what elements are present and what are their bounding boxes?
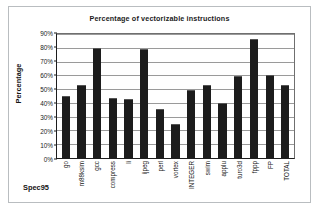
x-axis-tick-slot: gcc [89,159,105,203]
bar [109,98,117,158]
x-axis-tick-label: TOTAL [283,161,290,181]
y-axis-tick-labels: 90%80%70%60%50%40%30%20%10%0% [27,33,53,159]
chart-title: Percentage of vectorizable instructions [9,14,310,23]
x-axis-tick-labels: gom88ksimgcccompressliijpegperlvortexINT… [56,159,295,203]
x-axis-tick-slot: perl [152,159,168,203]
y-axis-tick-label: 60% [27,72,53,79]
x-axis-tick-slot: ijpeg [136,159,152,203]
x-axis-tick-slot: fppp [247,159,263,203]
bar-series [57,34,294,158]
bar-slot [246,34,262,158]
x-axis-tick-label: INTEGER [188,161,195,189]
bar-slot [121,34,137,158]
bar-slot [74,34,90,158]
x-axis-tick-label: perl [156,161,163,172]
bar-slot [230,34,246,158]
x-axis-tick-slot: swim [199,159,215,203]
x-axis-tick-label: turo3d [235,161,242,179]
bar-slot [183,34,199,158]
bar [62,96,70,158]
bar-slot [168,34,184,158]
x-axis-tick-label: compress [109,161,116,188]
bar [140,49,148,158]
bar [234,76,242,158]
y-axis-tick-label: 30% [27,114,53,121]
bar [93,48,101,158]
y-axis-tick-label: 90% [27,30,53,37]
x-axis-tick-label: swim [204,161,211,175]
bar-slot [89,34,105,158]
x-axis-tick-slot: m88ksim [73,159,89,203]
bar [203,85,211,158]
bar-slot [58,34,74,158]
bar-slot [215,34,231,158]
y-axis-tick-label: 40% [27,100,53,107]
x-axis-title: Spec95 [23,183,49,192]
x-axis-tick-slot: TOTAL [278,159,294,203]
bar [250,39,258,158]
plot-area [56,33,295,159]
bar-slot [152,34,168,158]
bar [187,90,195,158]
bar-slot [199,34,215,158]
y-axis-title: Percentage [14,54,23,114]
bar-slot [262,34,278,158]
x-axis-tick-slot: go [57,159,73,203]
y-axis-tick-label: 10% [27,142,53,149]
y-axis-tick-label: 0% [27,156,53,163]
x-axis-tick-label: gcc [93,161,100,171]
bar [171,124,179,158]
x-axis-tick-label: applu [219,161,226,176]
x-axis-tick-label: m88ksim [77,161,84,186]
bar-slot [277,34,293,158]
x-axis-tick-slot: FP [262,159,278,203]
bar [77,85,85,158]
bar [156,109,164,158]
y-axis-tick-label: 80% [27,44,53,51]
x-axis-tick-slot: turo3d [231,159,247,203]
x-axis-tick-slot: li [120,159,136,203]
bar [124,99,132,158]
x-axis-tick-label: go [61,161,68,168]
x-axis-tick-slot: INTEGER [183,159,199,203]
x-axis-tick-slot: compress [104,159,120,203]
bar [281,85,289,158]
y-axis-tick-label: 50% [27,86,53,93]
x-axis-tick-label: vortex [172,161,179,178]
chart-frame: Percentage of vectorizable instructions … [8,6,311,203]
y-axis-tick-label: 20% [27,128,53,135]
bar-slot [105,34,121,158]
x-axis-tick-label: fppp [251,161,258,173]
bar [218,103,226,158]
x-axis-tick-label: ijpeg [140,161,147,174]
bar-slot [136,34,152,158]
y-axis-tick-label: 70% [27,58,53,65]
x-axis-tick-label: li [125,161,132,164]
x-axis-tick-slot: applu [215,159,231,203]
x-axis-tick-label: FP [267,161,274,169]
x-axis-tick-slot: vortex [168,159,184,203]
bar [266,75,274,158]
